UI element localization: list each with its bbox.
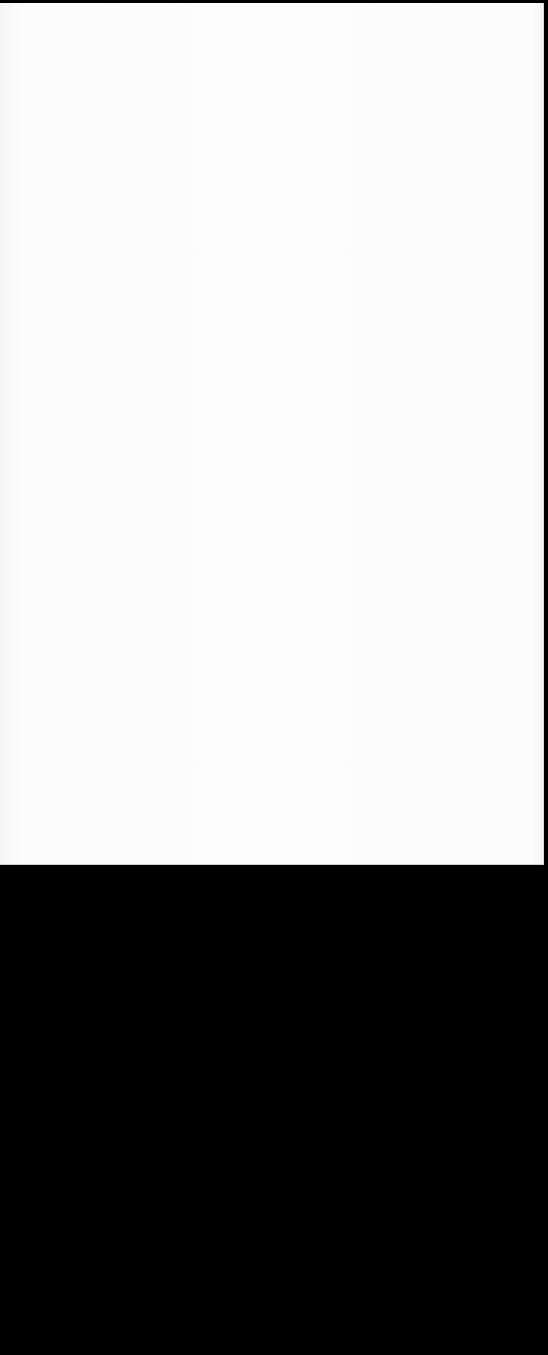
blank-content-panel (0, 3, 544, 865)
empty-black-area (0, 866, 548, 1355)
screen (0, 0, 548, 1355)
blank-panel-surface (0, 3, 543, 864)
